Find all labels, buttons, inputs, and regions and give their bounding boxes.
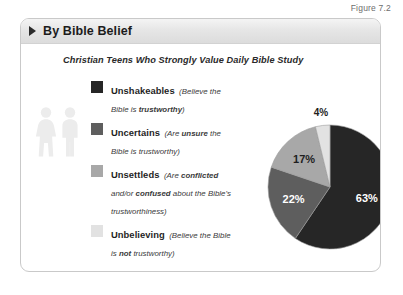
legend-item-label: Unsettleds: [111, 169, 159, 180]
legend-item-uncertains: Uncertains (Are unsure the Bible is trus…: [91, 122, 233, 158]
card-header: By Bible Belief: [21, 19, 380, 44]
chart-subtitle: Christian Teens Who Strongly Value Daily…: [63, 55, 303, 65]
legend-desc-post: ): [182, 105, 185, 114]
legend-item-label: Uncertains: [111, 127, 160, 138]
legend-desc-post: trustworthy): [131, 249, 174, 258]
legend-swatch: [91, 225, 103, 237]
legend-desc-pre: (Are: [164, 129, 181, 138]
legend-swatch: [91, 81, 103, 93]
legend-desc-emphasis: unsure: [182, 129, 208, 138]
legend-desc-emphasis-2: confused: [136, 189, 171, 198]
legend-item-label: Unbelieving: [111, 229, 165, 240]
pie-slice-value-label: 22%: [283, 193, 305, 205]
legend-item-unshakeables: Unshakeables (Believe the Bible is trust…: [91, 80, 233, 116]
legend-desc-pre: (Are: [164, 171, 181, 180]
pie-slice-value-label: 4%: [314, 107, 329, 118]
legend-swatch: [91, 123, 103, 135]
legend-item-unsettleds: Unsettleds (Are conflicted and/or confus…: [91, 164, 233, 218]
page-title: By Bible Belief: [43, 24, 132, 38]
pie-slice-value-label: 63%: [356, 192, 378, 204]
legend-desc-mid: and/or: [111, 189, 136, 198]
legend-swatch: [91, 165, 103, 177]
legend-desc-emphasis: trustworthy: [139, 105, 182, 114]
pie-chart: 63%22%17%4%: [261, 107, 381, 257]
triangle-right-icon: [29, 26, 36, 36]
legend: Unshakeables (Believe the Bible is trust…: [91, 80, 233, 266]
two-people-icon: [29, 105, 87, 157]
figure-card: By Bible Belief Christian Teens Who Stro…: [20, 18, 381, 272]
legend-item-label: Unshakeables: [111, 85, 175, 96]
legend-desc-emphasis: not: [119, 249, 131, 258]
pie-slice-value-label: 17%: [293, 153, 315, 165]
legend-desc-emphasis: conflicted: [181, 171, 218, 180]
figure-caption: Figure 7.2: [351, 3, 391, 13]
legend-item-unbelieving: Unbelieving (Believe the Bible is not tr…: [91, 224, 233, 260]
